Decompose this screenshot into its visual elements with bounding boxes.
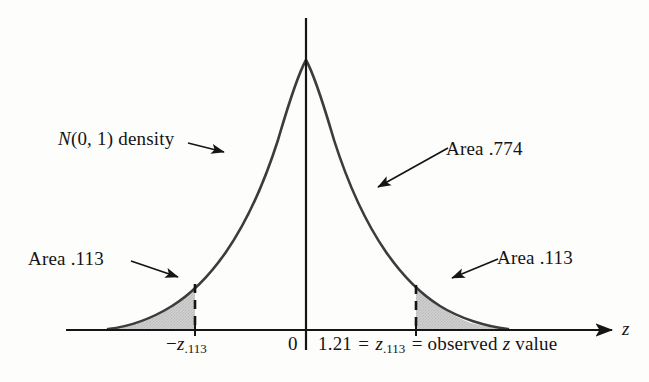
left-tail-shaded-area [108, 285, 195, 329]
quantile-z-symbol: z [375, 333, 383, 354]
area-center-leader-arrow [378, 148, 448, 187]
z-symbol: z [177, 333, 185, 354]
quantile-z-subscript: .113 [383, 341, 405, 356]
figure-canvas [0, 0, 649, 382]
equals-sign-1: = [358, 333, 369, 354]
x-axis-label: z [622, 318, 630, 340]
right-tail-shaded-area [416, 287, 508, 329]
value-word: value [515, 333, 557, 354]
tick-label-negative-critical: −z.113 [166, 333, 207, 357]
density-label-leader-arrow [188, 143, 224, 152]
area-center-label: Area .774 [446, 138, 523, 160]
area-left-tail-label: Area .113 [28, 248, 104, 270]
tick-label-observed-value: 1.21 = z.113 = observed z value [318, 333, 557, 357]
area-left-leader-arrow [131, 261, 178, 277]
equals-sign-2: = [412, 333, 423, 354]
observed-z-symbol: z [503, 333, 511, 354]
minus-sign: − [166, 333, 177, 354]
normal-distribution-figure: N(0, 1) density Area .774 Area .113 Area… [0, 0, 649, 382]
area-right-tail-label: Area .113 [497, 247, 573, 269]
normal-density-curve [108, 60, 508, 329]
area-right-leader-arrow [452, 259, 498, 278]
density-label-rest: (0, 1) density [71, 128, 175, 149]
density-label-n: N [58, 128, 71, 149]
density-label: N(0, 1) density [58, 128, 174, 150]
z-subscript: .113 [185, 341, 207, 356]
observed-number: 1.21 [318, 333, 352, 354]
tick-label-origin: 0 [288, 333, 298, 355]
observed-word: observed [428, 333, 498, 354]
